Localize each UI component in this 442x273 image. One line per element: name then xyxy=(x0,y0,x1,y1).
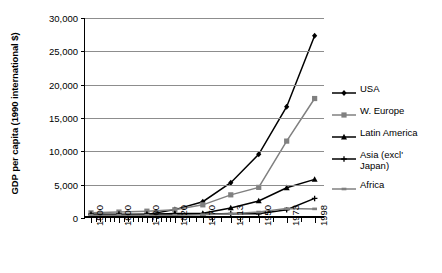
legend-label: Africa xyxy=(357,180,384,191)
x-tick-label: 1820 xyxy=(178,205,189,226)
x-tick-label: 1500 xyxy=(94,205,105,226)
chart-legend: USAW. EuropeLatin AmericaAsia (excl' Jap… xyxy=(331,84,442,202)
x-tick-label: 1913 xyxy=(234,205,245,226)
x-tick-label: 1600 xyxy=(122,205,133,226)
x-tick-label: 1950 xyxy=(262,205,273,226)
x-tick-label: 1700 xyxy=(150,205,161,226)
legend-symbol-triangle-icon xyxy=(331,129,357,141)
data-point-marker xyxy=(341,112,346,117)
legend-label: W. Europe xyxy=(357,106,404,117)
legend-symbol-cross-icon xyxy=(331,151,357,163)
legend-symbol-diamond-icon xyxy=(331,85,357,97)
data-point-marker xyxy=(341,90,346,96)
legend-item[interactable]: Africa xyxy=(331,180,442,193)
legend-item[interactable]: Latin America xyxy=(331,128,442,141)
x-tick-label: 1998 xyxy=(318,205,329,226)
x-tick-label: 1973 xyxy=(290,205,301,226)
legend-label: USA xyxy=(357,84,380,95)
legend-item[interactable]: Asia (excl' Japan) xyxy=(331,150,442,171)
legend-symbol-dash-icon xyxy=(331,181,357,193)
data-point-marker xyxy=(341,156,347,162)
legend-item[interactable]: W. Europe xyxy=(331,106,442,119)
legend-symbol-square-icon xyxy=(331,107,357,119)
x-tick-label: 1870 xyxy=(206,205,217,226)
data-point-marker xyxy=(342,188,347,191)
legend-item[interactable]: USA xyxy=(331,84,442,97)
gdp-per-capita-line-chart: GDP per capita (1990 international $) 30… xyxy=(0,0,442,273)
legend-label: Latin America xyxy=(357,128,418,139)
legend-label: Asia (excl' Japan) xyxy=(357,150,403,171)
